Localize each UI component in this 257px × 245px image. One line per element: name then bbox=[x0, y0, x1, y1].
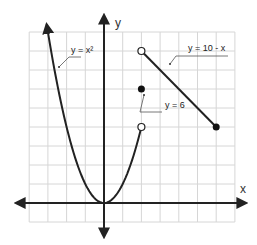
x-axis: x bbox=[16, 182, 246, 203]
piecewise-function-graph: x y y = x² y = 10 - x y = 6 bbox=[0, 0, 257, 245]
grid bbox=[29, 32, 235, 222]
closed-point-line-end bbox=[213, 124, 220, 131]
label-parabola: y = x² bbox=[58, 45, 93, 68]
label-line: y = 10 - x bbox=[169, 43, 228, 65]
parabola-label: y = x² bbox=[71, 45, 93, 55]
closed-point-y-6 bbox=[138, 86, 145, 93]
y-axis-label: y bbox=[115, 16, 121, 30]
label-point: y = 6 bbox=[140, 94, 185, 112]
line-label: y = 10 - x bbox=[188, 43, 226, 53]
open-point-line-start bbox=[138, 48, 145, 55]
open-point-parabola-end bbox=[138, 124, 145, 131]
point-label: y = 6 bbox=[165, 100, 185, 110]
x-axis-label: x bbox=[240, 182, 246, 196]
